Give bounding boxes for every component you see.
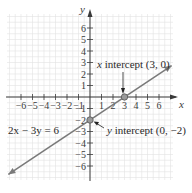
y-tick-label: −5	[75, 149, 86, 160]
x-tick-label: 4	[134, 100, 139, 111]
y-axis-arrow-icon	[88, 9, 93, 17]
y-tick-label: 5	[81, 34, 86, 45]
equation-label: 2x − 3y = 6	[8, 124, 59, 136]
x-intercept-point	[121, 94, 127, 100]
y-intercept-point	[87, 117, 93, 123]
x-tick-label: 5	[145, 100, 150, 111]
x-tick-label: −5	[27, 100, 38, 111]
x-tick-label: −4	[39, 100, 50, 111]
y-tick-label: 1	[81, 80, 86, 91]
x-axis-label: x	[178, 98, 184, 110]
y-tick-label: −1	[75, 103, 86, 114]
y-tick-label: −6	[75, 161, 86, 172]
y-intercept-text: intercept (0, −2)	[112, 124, 186, 137]
y-tick-label: −4	[75, 138, 86, 149]
x-tick-label: −2	[62, 100, 73, 111]
x-intercept-text: intercept (3, 0)	[102, 58, 170, 71]
x-tick-label: 6	[157, 100, 162, 111]
y-tick-label: −3	[75, 126, 86, 137]
y-tick-label: 2	[81, 69, 86, 80]
x-tick-label: −3	[50, 100, 61, 111]
x-tick-label: −6	[16, 100, 27, 111]
x-intercept-label: x intercept (3, 0)	[96, 58, 170, 71]
y-tick-label: 6	[81, 23, 86, 34]
y-tick-label: 4	[81, 46, 86, 57]
x-tick-label: 3	[122, 100, 127, 111]
y-axis-label: y	[79, 3, 85, 15]
coordinate-graph: x y −6−5−4−3−2−1123456654321−1−2−3−4−5−6…	[0, 0, 192, 193]
y-tick-label: 3	[81, 57, 86, 68]
x-tick-label: 1	[99, 100, 104, 111]
y-intercept-label: y intercept (0, −2)	[106, 124, 186, 137]
x-axis-arrow-icon	[170, 95, 178, 100]
y-intercept-pointer-arrow-icon	[94, 122, 100, 126]
